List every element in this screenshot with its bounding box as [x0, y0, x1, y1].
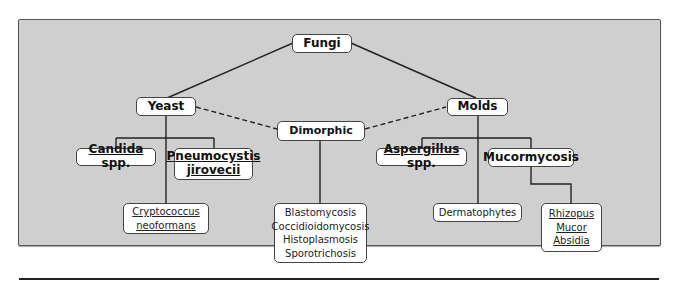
- node-fungi-label: Fungi: [303, 37, 340, 51]
- genus-item: Absidia: [553, 234, 589, 248]
- dimorphic-item: Sporotrichosis: [285, 247, 356, 261]
- connector-fungi-yeast: [167, 43, 293, 98]
- candida-spp: spp.: [102, 156, 131, 170]
- node-pneumocystis: Pneumocystis jirovecii: [174, 148, 253, 180]
- aspergillus-genus: Aspergillus: [384, 142, 460, 156]
- aspergillus-spp: spp.: [407, 156, 436, 170]
- node-dimorphic: Dimorphic: [277, 121, 365, 141]
- node-fungi: Fungi: [292, 34, 352, 53]
- connector-yeast-dimorphic: [196, 107, 277, 129]
- genus-item: Rhizopus: [549, 207, 594, 221]
- node-dimorphic-label: Dimorphic: [289, 125, 352, 138]
- pneumocystis-line2: jirovecii: [187, 164, 241, 178]
- dimorphic-item: Coccidioidomycosis: [272, 220, 370, 234]
- node-candida: Candida spp.: [76, 148, 156, 166]
- node-molds: Molds: [447, 98, 508, 116]
- connector-mucor-genera: [531, 166, 571, 203]
- node-mucormycosis: Mucormycosis: [488, 148, 574, 167]
- node-dermatophytes-label: Dermatophytes: [439, 206, 517, 220]
- candida-genus: Candida: [89, 142, 144, 156]
- cryptococcus-line1: Cryptococcus: [132, 205, 200, 219]
- node-candida-label: Candida spp.: [77, 143, 155, 171]
- node-yeast: Yeast: [136, 97, 196, 116]
- genus-item: Mucor: [556, 221, 587, 235]
- connector-fungi-molds: [351, 43, 476, 98]
- node-cryptococcus: Cryptococcus neoformans: [123, 203, 209, 234]
- cryptococcus-line2: neoformans: [136, 219, 196, 233]
- node-mucormycosis-label: Mucormycosis: [483, 151, 579, 165]
- node-dermatophytes: Dermatophytes: [433, 203, 522, 222]
- node-yeast-label: Yeast: [148, 100, 185, 114]
- node-mucor-genera: Rhizopus Mucor Absidia: [541, 203, 602, 252]
- node-dimorphic-list: Blastomycosis Coccidioidomycosis Histopl…: [274, 203, 367, 263]
- node-molds-label: Molds: [457, 100, 497, 114]
- pneumocystis-line1: Pneumocystis: [167, 150, 261, 164]
- node-aspergillus-label: Aspergillus spp.: [377, 143, 466, 171]
- dimorphic-item: Histoplasmosis: [283, 233, 358, 247]
- bottom-rule: [19, 278, 659, 280]
- connector-dimorphic-molds: [365, 107, 446, 129]
- node-aspergillus: Aspergillus spp.: [376, 148, 467, 166]
- dimorphic-item: Blastomycosis: [285, 206, 357, 220]
